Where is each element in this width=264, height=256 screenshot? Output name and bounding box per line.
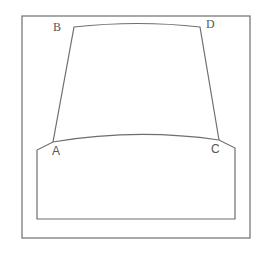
base-shape [37,134,235,219]
label-d: D [206,17,215,31]
diagram-canvas: B D A C [0,0,264,256]
label-b: B [53,20,61,34]
label-a: A [52,144,60,158]
trapezoid-upper-shape [53,24,219,143]
label-c: C [211,142,220,156]
